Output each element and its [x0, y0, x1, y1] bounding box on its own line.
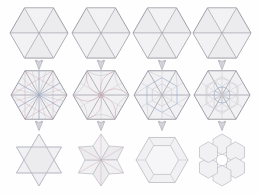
- center-hole: [216, 154, 227, 165]
- figure-canvas: [0, 0, 259, 195]
- origami-fold-diagram-figure: [0, 0, 259, 195]
